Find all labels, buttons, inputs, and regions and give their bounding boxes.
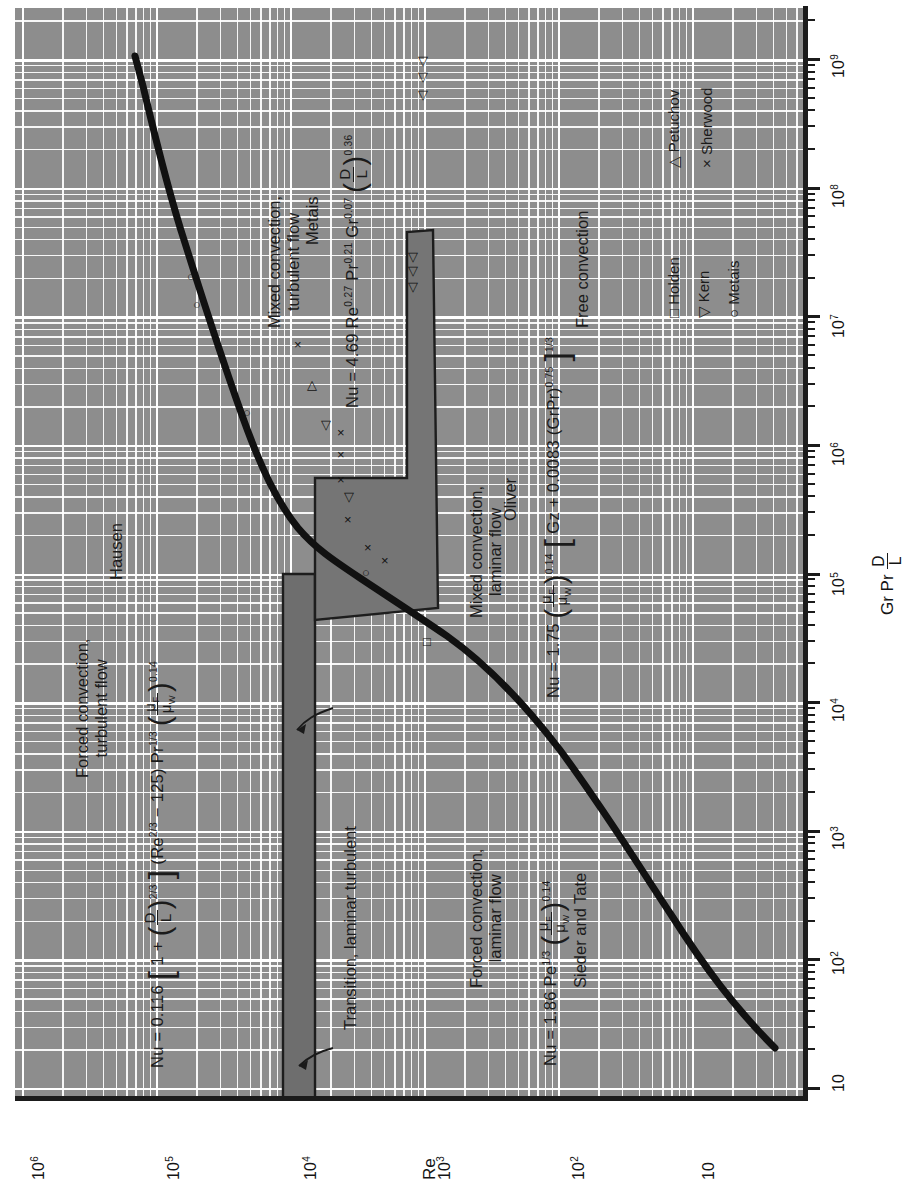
x-axis-minor-tick	[808, 920, 815, 922]
x-axis-minor-tick	[808, 987, 815, 989]
x-axis-minor-tick	[808, 850, 815, 852]
y-tick-label-2: 102	[570, 1156, 589, 1180]
metais-gr-exponent: 0.07	[343, 198, 354, 219]
x-tick-label-9: 109	[830, 54, 849, 78]
mu-exponent: 0.14	[148, 661, 159, 682]
x-title-lead: Gr Pr	[878, 574, 897, 615]
legend-label-petuchov: Petuchov	[665, 90, 682, 153]
x-axis-minor-tick	[808, 897, 815, 899]
x-axis-minor-tick	[808, 593, 815, 595]
x-tick-label-8: 108	[830, 184, 849, 208]
legend-item-petuchov: △ Petuchov	[665, 90, 683, 168]
formula-oliver: Nu = 1.75 (μFμW)0.14 [ Gz + 0.0083 (GrPr…	[535, 337, 575, 698]
x-axis-minor-tick	[808, 335, 815, 337]
x-axis-minor-tick	[808, 662, 815, 664]
x-tick-label-2: 102	[830, 951, 849, 975]
x-axis-minor-tick	[808, 1048, 815, 1050]
x-axis-major-tick	[808, 573, 820, 576]
legend-marker-up-triangle: △	[665, 156, 682, 168]
d-over-l: DL	[142, 910, 173, 925]
annotation-forced-turbulent: Forced convection, turbulent flow	[73, 639, 112, 778]
mu-w-o: μW	[553, 585, 569, 607]
y-tick-label-4: 104	[302, 1156, 321, 1180]
d-over-l-metais: DL	[337, 167, 368, 182]
x-axis-minor-tick	[808, 473, 815, 475]
annotation-mixed-turbulent: Mixed convection, turbulent flow	[265, 196, 304, 328]
bracket-close: ]	[141, 870, 179, 880]
paren-open-mu-s: (	[537, 936, 569, 946]
x-axis-major-tick	[808, 1087, 820, 1090]
x-axis-minor-tick	[808, 858, 815, 860]
mu-ratio-oliver: μFμW	[538, 585, 569, 607]
annotation-transition: Transition, laminar turbulent	[341, 826, 360, 1030]
author-hausen: Hausen	[107, 523, 126, 580]
x-axis-minor-tick	[808, 328, 815, 330]
mu-ratio: μFμW	[142, 693, 173, 715]
sieder-nu-lead: Nu = 1.86 Pe	[541, 966, 559, 1066]
mu-f-o: μF	[538, 585, 553, 607]
hausen-pr: Pr	[148, 746, 166, 763]
paren-close-dl: )	[339, 156, 371, 166]
x-axis-minor-tick	[808, 215, 815, 217]
x-axis-minor-tick	[808, 193, 815, 195]
x-axis-minor-tick	[808, 978, 815, 980]
oliver-grpr-exponent: 0.75	[544, 366, 555, 387]
oliver-bracket-body: Gz + 0.0083 (GrPr)	[544, 388, 562, 534]
x-axis-minor-tick	[808, 730, 815, 732]
x-tick-label-3: 103	[830, 826, 849, 850]
legend-label-sherwood: Sherwood	[698, 88, 715, 156]
x-axis-minor-tick	[808, 707, 815, 709]
author-metais: Metais	[303, 196, 322, 245]
sieder-pe-exponent: 1/3	[541, 951, 552, 966]
x-axis-major-tick	[808, 315, 820, 318]
legend-marker-square: □	[665, 309, 682, 318]
paren-open: (	[144, 926, 176, 936]
sieder-mu-exponent: 0.14	[541, 880, 552, 901]
mu-ratio-sieder: μFμW	[535, 912, 566, 934]
x-axis-minor-tick	[808, 456, 815, 458]
oliver-bracket-exponent: 1/3	[544, 337, 555, 352]
x-tick-label-5: 105	[830, 572, 849, 596]
x-axis-minor-tick	[808, 714, 815, 716]
x-axis-minor-tick	[808, 344, 815, 346]
x-axis-minor-tick	[808, 997, 815, 999]
metais-re-exponent: 0.27	[343, 286, 354, 307]
x-axis-minor-tick	[808, 881, 815, 883]
bracket-open: [	[141, 970, 179, 980]
x-axis-minor-tick	[808, 277, 815, 279]
paren-close-mu: )	[144, 682, 176, 692]
mu-f: μF	[142, 693, 157, 715]
x-axis-minor-tick	[808, 791, 815, 793]
paren-close-mu-o: )	[540, 574, 572, 584]
paren-open-mu: (	[144, 716, 176, 726]
x-axis-major-tick	[808, 830, 820, 833]
paren-close: )	[144, 899, 176, 909]
x-axis-minor-tick	[808, 207, 815, 209]
legend-item-kern: ▽ Kern	[695, 271, 713, 318]
annotation-free-convection: Free convection	[573, 211, 592, 328]
legend-label-kern: Kern	[695, 271, 712, 303]
pr-exponent: 1/3	[148, 731, 159, 746]
x-tick-label-4: 104	[830, 698, 849, 722]
x-axis-minor-tick	[808, 109, 815, 111]
y-tick-label-5: 105	[165, 1156, 184, 1180]
metais-gr: Gr	[343, 219, 361, 238]
x-axis-minor-tick	[808, 740, 815, 742]
x-axis-minor-tick	[808, 752, 815, 754]
metais-dl-exponent: 0.36	[343, 135, 354, 156]
metais-pr-exponent: 0.21	[343, 243, 354, 264]
x-axis-minor-tick	[808, 97, 815, 99]
bracket-open-o: [	[537, 539, 575, 549]
hausen-one-plus: 1 +	[148, 941, 166, 965]
formula-hausen: Nu = 0.116 [ 1 + (DL)2/3 ] (Re2/3 − 125)…	[139, 661, 179, 1068]
x-axis-minor-tick	[808, 464, 815, 466]
d-over-l-axis: DL	[871, 553, 903, 568]
x-axis-minor-tick	[808, 640, 815, 642]
hausen-re-term: (Re	[148, 837, 166, 865]
x-axis-minor-tick	[808, 226, 815, 228]
axis-spine-x	[15, 1096, 808, 1101]
dl-exponent: 2/3	[148, 884, 159, 899]
x-axis-minor-tick	[808, 405, 815, 407]
x-axis-minor-tick	[808, 624, 815, 626]
x-axis-minor-tick	[808, 354, 815, 356]
